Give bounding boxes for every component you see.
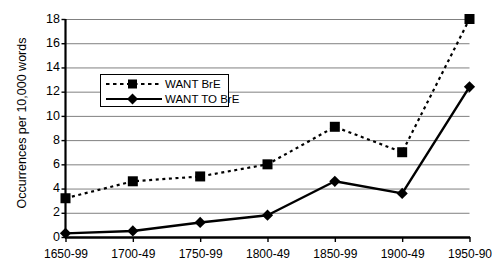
data-point-marker: [330, 122, 340, 132]
x-tick-label: 1650-99: [44, 248, 88, 260]
data-point-marker: [195, 217, 206, 228]
x-tick-label: 1950-90: [448, 248, 492, 260]
legend-label: WANT BrE: [165, 77, 221, 91]
x-tick-label: 1750-99: [179, 248, 223, 260]
data-point-marker: [465, 14, 475, 24]
legend-label: WANT TO BrE: [165, 92, 239, 106]
data-point-marker: [128, 176, 138, 186]
x-tick-label: 1800-49: [246, 248, 290, 260]
data-point-marker: [464, 81, 475, 92]
data-series-layer: [60, 14, 475, 239]
x-tick-label: 1900-49: [381, 248, 425, 260]
series-line: [66, 19, 470, 198]
x-tick-label: 1850-99: [313, 248, 357, 260]
series-want-bre: [61, 14, 475, 203]
legend-swatch-dashed-square-icon: [105, 76, 163, 92]
data-point-marker: [127, 225, 138, 236]
data-point-marker: [262, 210, 273, 221]
data-point-marker: [329, 176, 340, 187]
data-point-marker: [61, 193, 71, 203]
data-point-marker: [263, 159, 273, 169]
chart-legend: WANT BrE WANT TO BrE: [100, 74, 229, 107]
x-tick-label: 1700-49: [111, 248, 155, 260]
legend-item-want-bre: WANT BrE: [101, 76, 228, 92]
legend-item-want-to-bre: WANT TO BrE: [101, 91, 228, 107]
data-point-marker: [195, 171, 205, 181]
legend-swatch-solid-diamond-icon: [105, 91, 163, 107]
data-point-marker: [397, 147, 407, 157]
